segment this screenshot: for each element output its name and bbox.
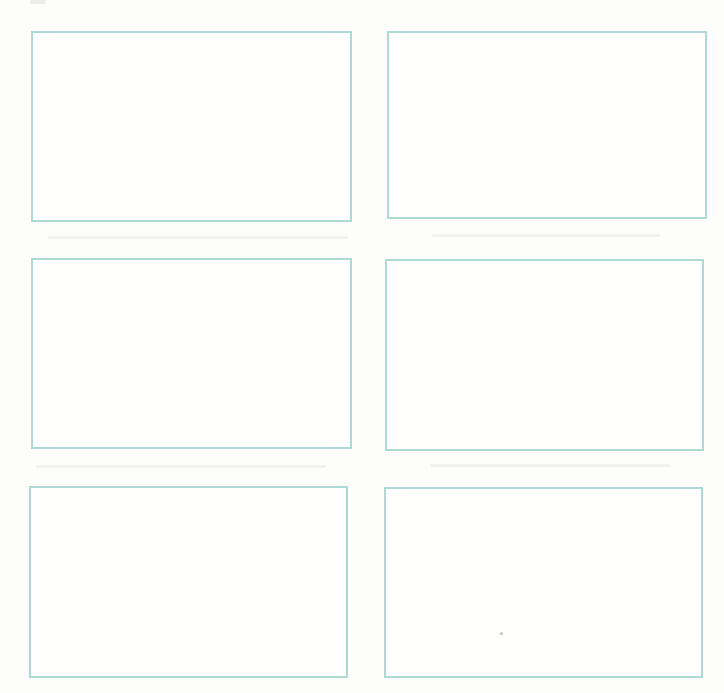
answer-box-1 [31, 31, 352, 222]
scan-streak-icon [36, 465, 326, 468]
answer-box-2 [387, 31, 707, 219]
answer-box-5 [29, 486, 348, 678]
answer-box-6 [384, 487, 703, 678]
answer-box-3 [31, 258, 352, 449]
scan-smudge-icon [30, 0, 46, 4]
scan-streak-icon [48, 236, 348, 239]
answer-box-4 [385, 259, 704, 451]
scan-streak-icon [432, 234, 660, 237]
worksheet-page [0, 0, 724, 693]
scan-streak-icon [430, 464, 670, 467]
